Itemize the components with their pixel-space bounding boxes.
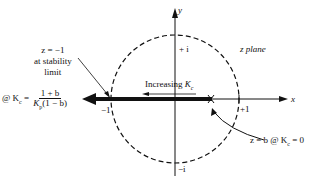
x-axis-label: x: [291, 95, 295, 104]
plane-title: z plane: [240, 45, 266, 54]
y-axis-label: y: [178, 6, 182, 15]
kc-critical-formula: @ Kc = 1 + b Kp(1 − b): [2, 89, 69, 110]
start-point-annotation: z = b @ Kc = 0: [250, 136, 304, 147]
tick-label-plus-i: + i: [179, 45, 189, 54]
stability-leader-line: [78, 58, 108, 95]
tick-label-minus-one: −1: [101, 106, 111, 115]
kc-fraction: 1 + b Kp(1 − b): [31, 89, 69, 110]
root-locus-arrow-icon: [82, 93, 96, 105]
tick-label-minus-i: −i: [178, 165, 186, 174]
tick-label-plus-one: +1: [240, 105, 250, 114]
increasing-arrow-head-icon: [142, 92, 149, 96]
x-axis-arrow-icon: [279, 96, 288, 102]
increasing-kc-label: Increasing Kc: [145, 80, 193, 91]
stability-annotation: z = −1 at stability limit: [34, 45, 72, 78]
